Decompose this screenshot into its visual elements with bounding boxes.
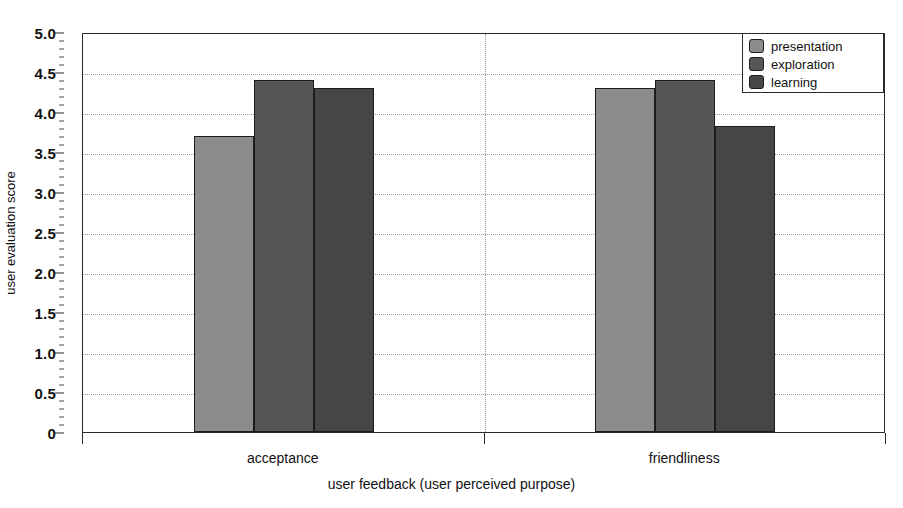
y-axis-tick-label: 3.0: [35, 185, 56, 202]
y-axis-minor-tick: [59, 97, 64, 98]
y-axis-tick: [55, 73, 64, 74]
y-axis-tick-label: 3.5: [35, 145, 56, 162]
legend-item-label: exploration: [771, 58, 835, 71]
y-axis-tick-label: 2.0: [35, 265, 56, 282]
y-axis-minor-tick: [59, 265, 64, 266]
y-axis-tick-label: 4.0: [35, 105, 56, 122]
y-axis-tick: [55, 153, 64, 154]
y-axis-minor-tick: [59, 401, 64, 402]
y-axis-tick-label: 2.5: [35, 225, 56, 242]
bars-layer: [83, 34, 884, 432]
y-axis-tick: [55, 113, 64, 114]
y-axis-minor-tick: [59, 361, 64, 362]
y-axis-tick-label: 1.0: [35, 345, 56, 362]
legend: presentationexplorationlearning: [742, 33, 884, 93]
y-axis-minor-tick: [59, 161, 64, 162]
y-axis-tick-label: 5.0: [35, 25, 56, 42]
y-axis-minor-tick: [59, 337, 64, 338]
y-axis-tick: [55, 33, 64, 34]
y-axis-minor-tick: [59, 385, 64, 386]
y-axis-minor-tick: [59, 137, 64, 138]
y-axis-minor-tick: [59, 217, 64, 218]
y-axis-minor-tick: [59, 169, 64, 170]
y-axis-tick: [55, 433, 64, 434]
legend-swatch-icon: [749, 57, 764, 71]
legend-item-label: learning: [771, 76, 817, 89]
y-axis-minor-tick: [59, 57, 64, 58]
y-axis-tick-label: 0: [47, 425, 56, 442]
y-axis-tick: [55, 393, 64, 394]
bar-friendliness-learning: [715, 126, 775, 432]
legend-item-learning: learning: [749, 73, 879, 91]
y-axis-minor-tick: [59, 241, 64, 242]
legend-item-label: presentation: [771, 40, 843, 53]
y-axis-minor-tick: [59, 185, 64, 186]
y-axis-minor-tick: [59, 105, 64, 106]
y-axis-tick: [55, 233, 64, 234]
y-axis-minor-tick: [59, 49, 64, 50]
bar-friendliness-exploration: [655, 80, 715, 432]
y-axis-minor-tick: [59, 289, 64, 290]
x-axis-tick: [82, 433, 83, 444]
bar-acceptance-learning: [314, 88, 374, 432]
y-axis-minor-tick: [59, 257, 64, 258]
y-axis-minor-tick: [59, 209, 64, 210]
bar-acceptance-presentation: [194, 136, 254, 432]
y-axis-minor-tick: [59, 249, 64, 250]
y-axis-tick: [55, 313, 64, 314]
plot-area: [82, 33, 885, 433]
x-axis-tick-label-friendliness: friendliness: [649, 450, 720, 466]
y-axis-minor-tick: [59, 41, 64, 42]
y-axis-minor-tick: [59, 81, 64, 82]
x-axis-title: user feedback (user perceived purpose): [0, 476, 903, 492]
y-axis-tick: [55, 193, 64, 194]
bar-friendliness-presentation: [595, 88, 655, 432]
y-axis-minor-tick: [59, 409, 64, 410]
y-axis-minor-tick: [59, 377, 64, 378]
y-axis-minor-tick: [59, 321, 64, 322]
y-axis-minor-tick: [59, 281, 64, 282]
y-axis-minor-tick: [59, 129, 64, 130]
y-axis-minor-tick: [59, 345, 64, 346]
legend-item-exploration: exploration: [749, 55, 879, 73]
y-axis-minor-tick: [59, 121, 64, 122]
bar-acceptance-exploration: [254, 80, 314, 432]
y-axis-minor-tick: [59, 201, 64, 202]
y-axis-minor-tick: [59, 177, 64, 178]
y-axis-tick-label: 4.5: [35, 65, 56, 82]
y-axis-minor-tick: [59, 89, 64, 90]
y-axis-minor-tick: [59, 225, 64, 226]
y-axis-minor-tick: [59, 329, 64, 330]
x-axis-tick: [484, 433, 485, 444]
x-axis-tick-label-acceptance: acceptance: [247, 450, 319, 466]
y-axis-title: user evaluation score: [3, 171, 18, 295]
bar-chart: 00.51.01.52.02.53.03.54.04.55.0 user eva…: [0, 0, 903, 508]
y-axis-minor-tick: [59, 425, 64, 426]
x-axis-tick: [885, 433, 886, 444]
y-axis-minor-tick: [59, 297, 64, 298]
y-axis-tick-label: 0.5: [35, 385, 56, 402]
y-axis-minor-tick: [59, 65, 64, 66]
y-axis-tick-label: 1.5: [35, 305, 56, 322]
y-axis-minor-tick: [59, 417, 64, 418]
y-axis-minor-tick: [59, 369, 64, 370]
y-axis-tick: [55, 273, 64, 274]
y-axis-minor-tick: [59, 305, 64, 306]
legend-item-presentation: presentation: [749, 37, 879, 55]
y-axis-tick: [55, 353, 64, 354]
legend-swatch-icon: [749, 39, 764, 53]
legend-swatch-icon: [749, 75, 764, 89]
y-axis-minor-tick: [59, 145, 64, 146]
